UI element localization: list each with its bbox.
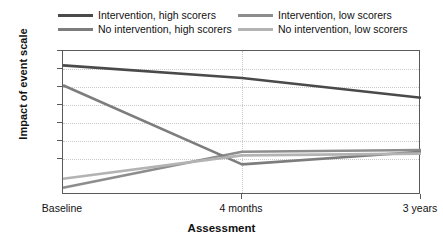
legend-label-intervention-high: Intervention, high scorers [98,9,216,22]
legend-swatch-intervention-high [58,14,93,17]
legend-row-1: Intervention, high scorers Intervention,… [58,9,436,22]
series-layer [63,51,421,195]
series-line [63,65,421,97]
legend-item-intervention-high[interactable]: Intervention, high scorers [58,9,216,22]
x-tick-label: Baseline [17,202,107,214]
x-tick-label: 4 months [196,202,286,214]
x-tick-label: 3 years [375,202,443,214]
legend-swatch-no-intervention-high [58,28,93,31]
chart-legend: Intervention, high scorers Intervention,… [58,9,436,39]
legend-swatch-no-intervention-low [238,28,273,31]
legend-swatch-intervention-low [238,14,273,17]
legend-item-intervention-low[interactable]: Intervention, low scorers [238,9,392,22]
x-axis-title: Assessment [0,222,443,234]
chart-figure: Intervention, high scorers Intervention,… [0,0,443,246]
legend-label-no-intervention-low: No intervention, low scorers [278,23,408,36]
legend-item-no-intervention-low[interactable]: No intervention, low scorers [238,23,408,36]
legend-item-no-intervention-high[interactable]: No intervention, high scorers [58,23,232,36]
legend-label-intervention-low: Intervention, low scorers [278,9,392,22]
plot-area [62,50,420,194]
y-axis-title: Impact of event scale [17,14,29,154]
legend-label-no-intervention-high: No intervention, high scorers [98,23,232,36]
series-line [63,154,421,179]
legend-row-2: No intervention, high scorers No interve… [58,23,436,36]
